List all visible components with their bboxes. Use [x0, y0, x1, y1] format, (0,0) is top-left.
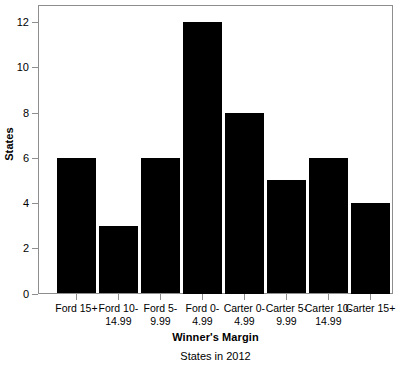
bar — [141, 158, 180, 294]
x-axis-title: Winner's Margin — [38, 331, 393, 343]
chart-caption: States in 2012 — [38, 350, 393, 362]
x-tick-mark — [118, 294, 119, 300]
bar — [225, 113, 264, 294]
bar — [351, 203, 390, 294]
x-tick-mark — [76, 294, 77, 300]
bar — [99, 226, 138, 294]
bar — [57, 158, 96, 294]
x-tick-mark — [370, 294, 371, 300]
x-tick-label: Carter 15+ — [328, 302, 407, 315]
bar — [267, 180, 306, 293]
x-tick-mark — [328, 294, 329, 300]
bar-chart: States 024681012 Ford 15+Ford 10-14.99Fo… — [0, 0, 407, 368]
bar — [309, 158, 348, 294]
x-tick-mark — [244, 294, 245, 300]
x-tick-mark — [202, 294, 203, 300]
x-tick-mark — [286, 294, 287, 300]
x-tick-label-line: Carter 15+ — [328, 302, 407, 315]
x-tick-label-line: 14.99 — [286, 315, 370, 328]
x-tick-mark — [160, 294, 161, 300]
bar — [183, 22, 222, 294]
